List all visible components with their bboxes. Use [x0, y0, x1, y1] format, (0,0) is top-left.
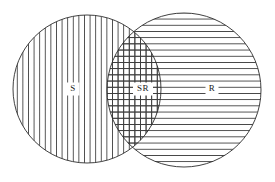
set-r-label-group: R: [206, 83, 219, 96]
venn-diagram-figure: S SR R: [0, 0, 275, 182]
venn-diagram-canvas: S SR R: [0, 0, 275, 182]
set-s-label: S: [70, 83, 75, 93]
intersection-sr-label-group: SR: [133, 83, 153, 96]
set-r-label: R: [209, 83, 215, 93]
set-s-label-group: S: [67, 83, 80, 96]
intersection-sr-label: SR: [137, 83, 149, 93]
